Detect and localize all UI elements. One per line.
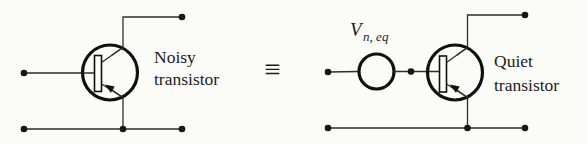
quiet-transistor-circuit: Vn, eq Quiet [325,12,560,132]
noisy-bottom-right-terminal-dot [179,126,186,133]
quiet-emitter-junction-dot [464,125,471,132]
noisy-base-terminal-dot [21,70,28,77]
transistor-noise-equivalence-figure: Noisy transistor ≡ Vn, eq [0,0,587,144]
base-junction-dot [408,68,415,75]
noise-source-label-main: V [350,19,364,40]
quiet-input-terminal-dot [325,69,332,76]
base-bar [440,56,447,92]
noisy-caption-line1: Noisy [154,47,196,67]
quiet-transistor-symbol [428,45,483,100]
equivalence-icon: ≡ [264,53,280,85]
base-bar [95,56,102,92]
noisy-collector-terminal-dot [179,14,186,21]
quiet-collector-terminal-dot [522,12,529,19]
noise-source-label: Vn, eq [350,19,389,44]
transistor-envelope-circle [428,45,483,100]
emitter-diagonal [102,84,124,98]
noisy-emitter-junction-dot [120,126,127,133]
noise-source-circle [359,54,394,89]
quiet-emitter-wire [457,90,468,128]
collector-diagonal [447,48,468,63]
noisy-bottom-left-terminal-dot [21,126,28,133]
quiet-bottom-left-terminal-dot [325,125,332,132]
noisy-caption-line2: transistor [154,69,219,89]
quiet-input-wire [328,72,359,73]
noise-source-label-subscript: n, eq [363,29,389,44]
quiet-caption-line1: Quiet [494,51,533,71]
circuit-diagram: Noisy transistor ≡ Vn, eq [0,0,587,144]
noisy-transistor-circuit: Noisy transistor [21,14,220,133]
noise-voltage-source: Vn, eq [350,19,394,89]
quiet-caption-line2: transistor [494,75,559,95]
collector-diagonal [102,48,124,63]
quiet-bottom-right-terminal-dot [522,125,529,132]
